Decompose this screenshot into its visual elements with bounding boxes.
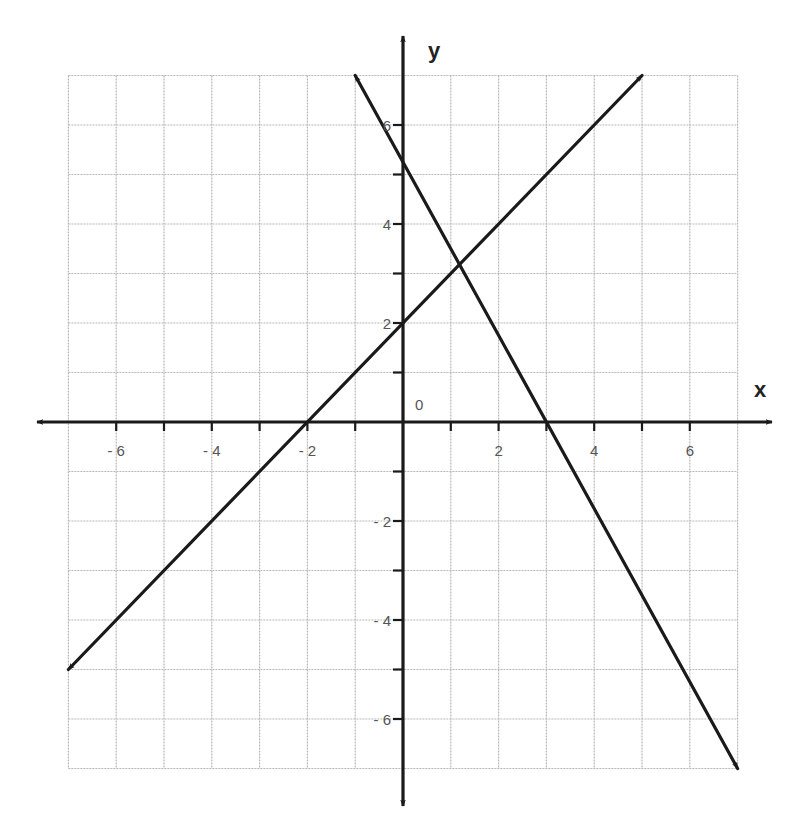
y-tick-label: - 2: [373, 513, 391, 530]
x-axis-label: x: [754, 377, 767, 402]
y-tick-label: - 4: [373, 612, 391, 629]
x-tick-label: 6: [686, 442, 694, 459]
y-tick-label: 4: [383, 216, 391, 233]
x-tick-label: - 6: [107, 442, 125, 459]
x-tick-label: - 4: [203, 442, 221, 459]
y-tick-label: 2: [383, 315, 391, 332]
coordinate-plane: - 6- 4- 2246642- 2- 4- 6 x y 0: [0, 0, 794, 827]
x-tick-label: - 2: [299, 442, 317, 459]
y-axis-label: y: [428, 38, 441, 63]
x-tick-label: 2: [494, 442, 502, 459]
y-tick-label: 6: [383, 117, 391, 134]
axes: [37, 36, 772, 806]
y-tick-label: - 6: [373, 711, 391, 728]
origin-label: 0: [415, 396, 423, 413]
x-tick-label: 4: [590, 442, 598, 459]
